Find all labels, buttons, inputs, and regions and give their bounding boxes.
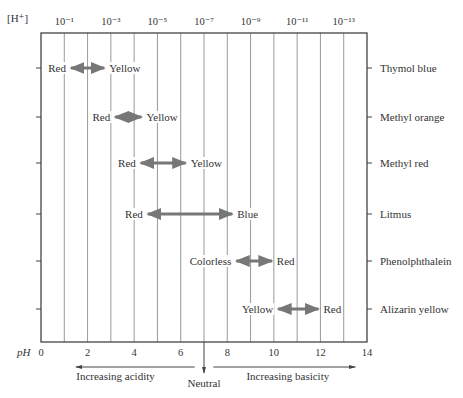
ph-tick-label: 4 <box>132 347 138 358</box>
indicator-ph-diagram: [H⁺]10⁻¹10⁻³10⁻⁵10⁻⁷10⁻⁹10⁻¹¹10⁻¹³ pH024… <box>0 0 463 398</box>
indicator-row: RedYellowThymol blue <box>36 62 437 74</box>
indicator-row: YellowRedAlizarin yellow <box>36 303 449 315</box>
base-color-label: Yellow <box>146 111 177 123</box>
indicator-name: Litmus <box>380 208 411 220</box>
base-color-label: Red <box>277 255 295 267</box>
increasing-basicity-label: Increasing basicity <box>246 370 329 382</box>
indicator-name: Methyl orange <box>380 111 445 123</box>
indicator-rows: RedYellowThymol blueRedYellowMethyl oran… <box>36 62 452 315</box>
ph-tick-label: 0 <box>38 347 43 358</box>
hydrogen-ion-axis: [H⁺]10⁻¹10⁻³10⁻⁵10⁻⁷10⁻⁹10⁻¹¹10⁻¹³ <box>7 12 355 27</box>
neutral-label: Neutral <box>188 377 221 389</box>
indicator-name: Phenolphthalein <box>380 255 452 267</box>
base-color-label: Blue <box>237 208 258 220</box>
acid-color-label: Yellow <box>242 303 273 315</box>
h-ion-tick-label: 10⁻¹³ <box>333 16 355 27</box>
indicator-row: RedYellowMethyl orange <box>36 111 445 123</box>
ph-tick-label: 2 <box>85 347 90 358</box>
ph-axis-label: pH <box>16 346 32 358</box>
h-ion-tick-label: 10⁻⁵ <box>148 16 168 27</box>
h-ion-tick-label: 10⁻⁷ <box>194 16 214 27</box>
acid-color-label: Colorless <box>190 255 232 267</box>
indicator-name: Thymol blue <box>380 62 437 74</box>
base-color-label: Yellow <box>109 62 140 74</box>
indicator-row: RedYellowMethyl red <box>36 157 429 169</box>
ph-tick-label: 14 <box>362 347 373 358</box>
indicator-name: Methyl red <box>380 157 429 169</box>
indicator-row: ColorlessRedPhenolphthalein <box>36 255 452 267</box>
h-ion-tick-label: 10⁻¹¹ <box>286 16 308 27</box>
acid-color-label: Red <box>48 62 66 74</box>
h-ion-tick-label: 10⁻³ <box>101 16 120 27</box>
indicator-row: RedBlueLitmus <box>36 208 411 220</box>
acid-color-label: Red <box>92 111 110 123</box>
h-ion-tick-label: 10⁻¹ <box>55 16 74 27</box>
ph-grid <box>41 33 367 342</box>
ph-tick-label: 12 <box>315 347 326 358</box>
acid-color-label: Red <box>125 208 143 220</box>
base-color-label: Red <box>323 303 341 315</box>
base-color-label: Yellow <box>191 157 222 169</box>
h-ion-axis-label: [H⁺] <box>7 12 28 24</box>
ph-axis: pH02468101214 <box>16 346 373 358</box>
ph-tick-label: 8 <box>225 347 230 358</box>
ph-tick-label: 10 <box>269 347 280 358</box>
acid-color-label: Red <box>118 157 136 169</box>
h-ion-tick-label: 10⁻⁹ <box>241 16 261 27</box>
direction-annotations: Increasing acidityNeutralIncreasing basi… <box>76 342 355 389</box>
ph-tick-label: 6 <box>178 347 183 358</box>
indicator-name: Alizarin yellow <box>380 303 449 315</box>
increasing-acidity-label: Increasing acidity <box>76 370 155 382</box>
